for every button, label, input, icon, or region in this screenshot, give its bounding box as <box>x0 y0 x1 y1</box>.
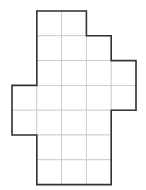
grid-cell <box>62 135 87 160</box>
grid-cell <box>37 135 62 160</box>
polyomino-grid-figure <box>0 0 146 190</box>
grid-cell <box>12 85 37 110</box>
grid-cell <box>62 36 87 61</box>
grid-cell <box>86 110 111 135</box>
grid-cell <box>37 36 62 61</box>
grid-cell <box>62 61 87 86</box>
grid-cell <box>86 61 111 86</box>
grid-cell <box>86 85 111 110</box>
grid-cell <box>111 85 136 110</box>
grid-cell <box>62 11 87 36</box>
grid-cell <box>62 110 87 135</box>
grid-cell <box>37 11 62 36</box>
grid-cell <box>12 110 37 135</box>
grid-cell <box>86 135 111 160</box>
grid-cell <box>37 61 62 86</box>
grid-cell <box>111 61 136 86</box>
grid-cell <box>62 85 87 110</box>
grid-cell <box>37 110 62 135</box>
grid-cells <box>12 11 136 185</box>
grid-cell <box>37 160 62 185</box>
grid-cell <box>62 160 87 185</box>
grid-cell <box>37 85 62 110</box>
grid-cell <box>86 160 111 185</box>
grid-cell <box>86 36 111 61</box>
